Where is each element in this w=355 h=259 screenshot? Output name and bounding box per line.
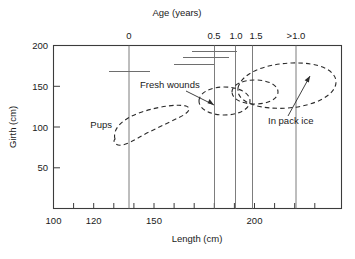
pups-envelope <box>114 105 189 145</box>
figure-container: Age (years) 0 0.5 1.0 1.5 >1.0 200 150 1… <box>0 0 355 259</box>
in-pack-ice-arrow-icon <box>305 76 310 83</box>
fresh-wounds-arrow-icon <box>208 99 215 105</box>
y-tick-label-50: 50 <box>37 162 48 173</box>
age-tick-label-gt-1-0: >1.0 <box>287 30 306 41</box>
y-axis-title: Girth (cm) <box>7 106 18 148</box>
age-tick-label-1-5: 1.5 <box>249 30 262 41</box>
y-tick-label-100: 100 <box>32 122 48 133</box>
age-tick-label-1-0: 1.0 <box>229 30 242 41</box>
y-tick-label-200: 200 <box>32 40 48 51</box>
mid-envelope <box>232 80 278 104</box>
x-axis-title: Length (cm) <box>172 233 223 244</box>
pups-annotation: Pups <box>90 119 112 130</box>
y-tick-label-150: 150 <box>32 81 48 92</box>
in-pack-ice-leader-line <box>288 76 310 116</box>
in-pack-ice-annotation: In pack ice <box>268 115 313 126</box>
x-tick-label-200: 200 <box>247 215 263 226</box>
age-axis-title: Age (years) <box>152 7 201 18</box>
x-tick-label-120: 120 <box>86 215 102 226</box>
x-tick-label-100: 100 <box>46 215 62 226</box>
age-tick-label-0: 0 <box>126 30 131 41</box>
age-tick-label-0-5: 0.5 <box>207 30 220 41</box>
chart-canvas: Age (years) 0 0.5 1.0 1.5 >1.0 200 150 1… <box>0 0 355 259</box>
x-tick-label-150: 150 <box>146 215 162 226</box>
fresh-wounds-annotation: Fresh wounds <box>140 79 200 90</box>
